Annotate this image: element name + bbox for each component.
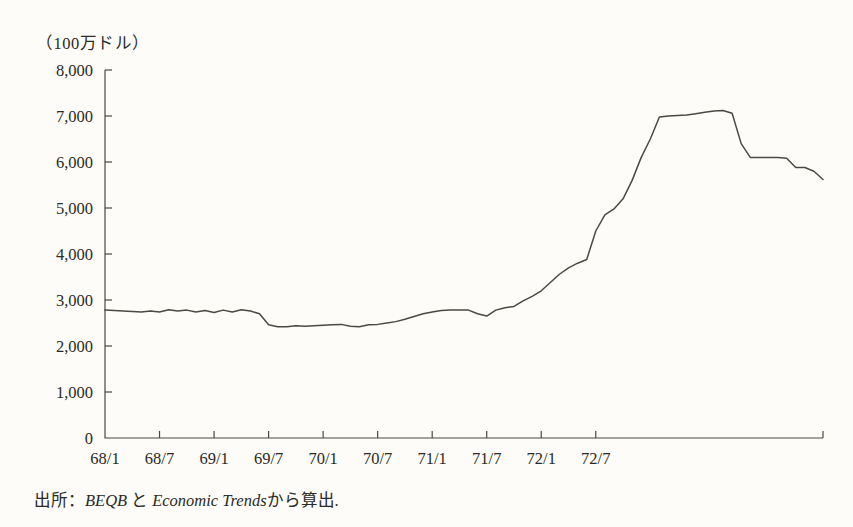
source-prefix: 出所： bbox=[34, 491, 85, 510]
y-tick-label: 7,000 bbox=[56, 107, 93, 126]
x-tick-label: 72/7 bbox=[581, 449, 610, 468]
source-note: 出所：BEQBとEconomic Trendsから算出. bbox=[34, 487, 339, 511]
y-tick-label: 4,000 bbox=[56, 245, 93, 264]
x-tick-label: 68/7 bbox=[145, 449, 174, 468]
chart-plot: 01,0002,0003,0004,0005,0006,0007,0008,00… bbox=[0, 0, 853, 527]
x-tick-label: 69/7 bbox=[254, 449, 283, 468]
y-axis-tick-marks bbox=[105, 70, 112, 392]
y-axis-tick-labels: 01,0002,0003,0004,0005,0006,0007,0008,00… bbox=[56, 61, 93, 448]
chart-figure: （100万ドル） 01,0002,0003,0004,0005,0006,000… bbox=[0, 0, 853, 527]
y-tick-label: 0 bbox=[85, 429, 93, 448]
y-tick-label: 1,000 bbox=[56, 383, 93, 402]
x-axis-tick-labels: 68/168/769/169/770/170/771/171/772/172/7 bbox=[90, 449, 610, 468]
x-tick-label: 69/1 bbox=[199, 449, 228, 468]
y-tick-label: 5,000 bbox=[56, 199, 93, 218]
x-tick-label: 71/1 bbox=[418, 449, 447, 468]
y-tick-label: 2,000 bbox=[56, 337, 93, 356]
x-tick-label: 71/7 bbox=[472, 449, 501, 468]
x-tick-label: 70/7 bbox=[363, 449, 392, 468]
y-tick-label: 3,000 bbox=[56, 291, 93, 310]
y-tick-label: 8,000 bbox=[56, 61, 93, 80]
x-axis-tick-marks bbox=[160, 431, 823, 438]
source-journal-2: Economic Trends bbox=[152, 491, 266, 510]
source-journal-1: BEQB bbox=[85, 491, 127, 510]
x-tick-label: 70/1 bbox=[308, 449, 337, 468]
axis-frame bbox=[105, 70, 823, 438]
source-suffix: から算出. bbox=[267, 491, 339, 510]
x-tick-label: 68/1 bbox=[90, 449, 119, 468]
y-tick-label: 6,000 bbox=[56, 153, 93, 172]
data-series-line bbox=[105, 110, 823, 326]
x-tick-label: 72/1 bbox=[527, 449, 556, 468]
source-conjunction: と bbox=[131, 491, 148, 510]
